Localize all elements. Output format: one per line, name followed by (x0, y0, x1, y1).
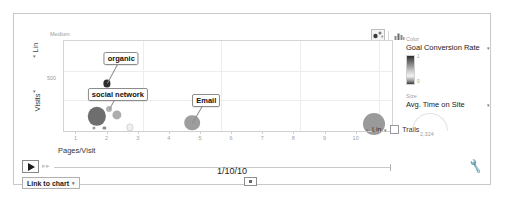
x-axis-tick (75, 131, 76, 134)
callout-label-organic[interactable]: organic (104, 52, 139, 65)
bubble[interactable] (92, 126, 95, 129)
bar-icon-svg (394, 31, 405, 40)
bar-chart-toggle-icon[interactable] (392, 29, 406, 41)
link-to-chart-button[interactable]: Link to chart ▾ (22, 177, 80, 189)
size-metric-caret-icon[interactable]: ▾ (487, 102, 490, 108)
color-metric-caret-icon[interactable]: ▾ (487, 45, 490, 51)
legend-panel: Color Goal Conversion Rate ▾ 1 0 Size Av… (406, 36, 492, 146)
y-scale-label: Lin (32, 33, 39, 63)
color-gradient-bar (406, 55, 415, 85)
x-axis-tick (356, 131, 357, 134)
bubble[interactable] (88, 107, 106, 125)
x-axis-tick (293, 131, 294, 134)
play-icon (28, 163, 35, 171)
link-to-chart-label: Link to chart (27, 180, 69, 187)
bubble[interactable] (126, 124, 133, 131)
x-axis-tick-label: 2 (105, 135, 108, 141)
trails-checkbox[interactable] (390, 125, 399, 134)
x-axis-tick (107, 131, 108, 134)
gridline-vertical (300, 41, 301, 131)
size-gauge: 2,324 (406, 113, 492, 139)
x-axis-tick (262, 131, 263, 134)
gridline-vertical (221, 41, 222, 131)
color-section-label: Color (406, 36, 492, 42)
gridline-vertical (143, 41, 144, 131)
callout-label-social-network[interactable]: social network (88, 88, 148, 101)
x-axis-tick-label: 10 (353, 135, 359, 141)
link-to-chart-caret-icon: ▾ (72, 180, 75, 186)
chart-region: ▾ Lin ▾ Visits Medium 500 (14, 14, 404, 146)
bubble[interactable] (103, 126, 106, 129)
x-axis-tick (231, 131, 232, 134)
wrench-icon[interactable]: 🔧 (468, 158, 485, 174)
gradient-max-label: 1 (417, 54, 420, 59)
x-axis-tick (169, 131, 170, 134)
x-axis-tick-label: 4 (167, 135, 170, 141)
y-scale-selector[interactable]: ▾ Lin ▾ (28, 36, 42, 86)
x-axis-tick-label: 1 (74, 135, 77, 141)
timeline-end-marker (390, 164, 391, 171)
x-axis-tick-label: 3 (136, 135, 139, 141)
y-scale-top-label: Medium (50, 31, 70, 37)
x-axis-tick-label: 9 (323, 135, 326, 141)
playback-bar: ▸▸ 1/10/10 🔧 Link to chart ▾ (14, 152, 492, 186)
color-gradient-legend[interactable]: 1 0 (406, 55, 415, 85)
x-axis-tick-label: 5 (198, 135, 201, 141)
y-axis-title-label: Visits (33, 87, 42, 119)
x-axis-tick-label: 6 (230, 135, 233, 141)
x-scale-caret-right[interactable]: ▾ (384, 127, 387, 133)
x-axis-tick (325, 131, 326, 134)
color-metric-select[interactable]: Goal Conversion Rate ▾ (406, 43, 492, 52)
toggle-separator (388, 31, 389, 40)
motion-chart-widget: ▾ Lin ▾ Visits Medium 500 (13, 13, 491, 185)
size-metric-select[interactable]: Avg. Time on Site ▾ (406, 100, 492, 109)
size-max-value: 2,324 (420, 131, 434, 137)
size-section: Size Avg. Time on Site ▾ 2,324 (406, 93, 492, 139)
y-tick-label-500: 500 (47, 75, 56, 81)
size-gauge-arc (412, 113, 448, 131)
x-scale-caret-left[interactable]: ▾ (366, 127, 369, 133)
play-button[interactable] (22, 160, 39, 173)
x-axis (63, 131, 394, 132)
x-axis-tick-label: 7 (261, 135, 264, 141)
x-axis-tick-label: 8 (292, 135, 295, 141)
callout-label-Email[interactable]: Email (192, 94, 220, 107)
x-axis-tick (138, 131, 139, 134)
x-scale-label[interactable]: Lin (372, 126, 381, 133)
handle-grip (249, 180, 252, 183)
playback-speed-icon[interactable]: ▸▸ (42, 162, 50, 170)
current-date-label: 1/10/10 (217, 166, 247, 176)
timeline-slider[interactable]: 1/10/10 (54, 167, 391, 168)
timeline-handle[interactable] (244, 177, 257, 186)
color-metric-label: Goal Conversion Rate (406, 43, 480, 52)
size-section-label: Size (406, 93, 492, 99)
bubble-icon-svg (373, 30, 384, 39)
gradient-min-label: 0 (417, 79, 420, 84)
plot-area[interactable]: organicsocial networkEmail (63, 40, 393, 131)
size-metric-label: Avg. Time on Site (406, 100, 465, 109)
bubble[interactable] (113, 110, 122, 119)
x-axis-tick (200, 131, 201, 134)
